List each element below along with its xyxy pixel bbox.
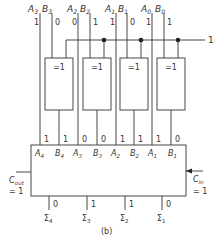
junction-dot: [176, 38, 181, 43]
xor-gate-2: =1: [83, 58, 111, 110]
svg-text:0: 0: [55, 18, 60, 27]
xor-gate-0: =1: [157, 58, 185, 110]
input-values: 1 0 0 1 1 0 1 1: [34, 18, 172, 27]
svg-text:Σ4: Σ4: [44, 214, 53, 224]
carry-in-value: = 1: [193, 187, 207, 196]
svg-text:0: 0: [53, 200, 58, 209]
svg-text:1: 1: [110, 18, 115, 27]
xor-gate-1: =1: [120, 58, 148, 110]
svg-text:=1: =1: [91, 63, 103, 72]
svg-text:1: 1: [63, 135, 68, 144]
svg-text:0: 0: [82, 135, 87, 144]
svg-text:0: 0: [101, 135, 106, 144]
svg-text:1: 1: [146, 18, 151, 27]
carry-in-label: Cin: [193, 175, 204, 185]
output-values: 0 1 1 0: [53, 200, 171, 209]
svg-text:A3: A3: [27, 4, 38, 15]
svg-text:1: 1: [167, 18, 172, 27]
svg-text:0: 0: [72, 18, 77, 27]
carry-out-value: = 1: [9, 187, 23, 196]
svg-text:1: 1: [120, 135, 125, 144]
svg-text:A0: A0: [140, 4, 151, 15]
svg-text:Σ3: Σ3: [82, 214, 91, 224]
svg-text:A1: A1: [104, 4, 115, 15]
junction-dot: [102, 38, 107, 43]
svg-text:B3: B3: [42, 4, 52, 15]
svg-text:0: 0: [130, 18, 135, 27]
svg-text:B2: B2: [80, 4, 90, 15]
svg-text:Σ1: Σ1: [157, 214, 166, 224]
xor-gate-3: =1: [45, 58, 73, 110]
adder-subtractor-diagram: 1 =1 =1 =1 =1 A3 B3 A2 B2 A1 B1 A0 B0 1 …: [0, 0, 216, 238]
svg-text:0: 0: [166, 200, 171, 209]
adder-input-values: 1 1 0 0 1 1 1 0: [44, 135, 180, 144]
arrow-left-icon: [186, 169, 192, 174]
output-labels: Σ4 Σ3 Σ2 Σ1: [44, 214, 166, 224]
svg-text:1: 1: [34, 18, 39, 27]
carry-out-label: Cout: [9, 176, 24, 186]
svg-text:A2: A2: [66, 4, 77, 15]
control-value: 1: [208, 35, 214, 45]
svg-text:=1: =1: [165, 63, 177, 72]
svg-text:B1: B1: [118, 4, 128, 15]
svg-text:=1: =1: [128, 63, 140, 72]
svg-text:1: 1: [156, 135, 161, 144]
svg-text:=1: =1: [53, 63, 65, 72]
input-labels: A3 B3 A2 B2 A1 B1 A0 B0: [27, 4, 165, 15]
svg-text:1: 1: [93, 18, 98, 27]
svg-text:0: 0: [175, 135, 180, 144]
junction-dot: [139, 38, 144, 43]
caption: (b): [101, 227, 112, 236]
svg-text:1: 1: [44, 135, 49, 144]
svg-text:Σ2: Σ2: [120, 214, 129, 224]
svg-text:1: 1: [129, 200, 134, 209]
svg-text:1: 1: [138, 135, 143, 144]
svg-text:1: 1: [91, 200, 96, 209]
svg-text:B0: B0: [155, 4, 165, 15]
